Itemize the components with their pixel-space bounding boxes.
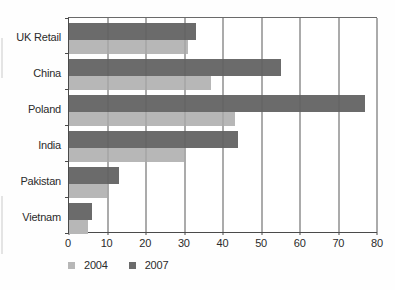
category-label: Pakistan: [0, 163, 61, 199]
category-label: India: [0, 127, 61, 163]
x-tick: [338, 232, 339, 235]
x-tick-label: 60: [294, 237, 306, 249]
x-tick: [223, 232, 224, 235]
x-tick-label: 50: [255, 237, 267, 249]
x-tick-label: 30: [178, 237, 190, 249]
category-label: UK Retail: [0, 19, 61, 55]
bar-2007: [69, 59, 281, 76]
bar-2007: [69, 131, 238, 148]
x-axis-labels: 01020304050607080: [68, 237, 377, 250]
legend-swatch: [129, 262, 136, 269]
bar-2004: [69, 40, 188, 54]
category-label: Vietnam: [0, 199, 61, 235]
x-tick: [107, 232, 108, 235]
category-label: Poland: [0, 91, 61, 127]
chart-canvas: UK RetailChinaPolandIndiaPakistanVietnam…: [0, 0, 395, 290]
bar-2004: [69, 76, 211, 90]
legend: 20042007: [68, 258, 168, 272]
legend-label: 2007: [145, 259, 169, 271]
bar-2007: [69, 23, 196, 40]
category-label: China: [0, 55, 61, 91]
bar-2004: [69, 184, 108, 198]
x-tick-label: 20: [139, 237, 151, 249]
legend-item: 2007: [129, 259, 169, 271]
bar-2004: [69, 148, 185, 162]
legend-label: 2004: [84, 259, 108, 271]
bar-2007: [69, 95, 365, 112]
x-tick-label: 40: [217, 237, 229, 249]
bar-2004: [69, 220, 88, 234]
x-tick-label: 80: [371, 237, 383, 249]
bar-2007: [69, 203, 92, 220]
x-tick-label: 0: [65, 237, 71, 249]
x-tick: [184, 232, 185, 235]
bar-2004: [69, 112, 235, 126]
x-tick: [146, 232, 147, 235]
legend-item: 2004: [68, 259, 108, 271]
bar-groups: [69, 18, 377, 232]
x-tick-label: 70: [332, 237, 344, 249]
plot-area: [68, 17, 377, 233]
x-tick: [300, 232, 301, 235]
x-tick-label: 10: [101, 237, 113, 249]
legend-swatch: [68, 262, 75, 269]
category-labels: UK RetailChinaPolandIndiaPakistanVietnam: [0, 19, 61, 235]
bar-2007: [69, 167, 119, 184]
x-tick: [261, 232, 262, 235]
x-tick: [377, 232, 378, 235]
